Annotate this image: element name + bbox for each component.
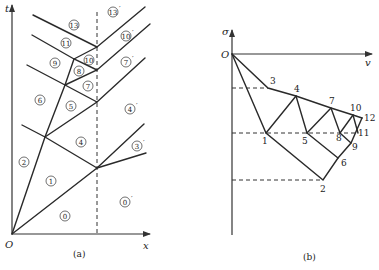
- region-label: 0: [63, 213, 67, 221]
- point-label-5: 5: [302, 136, 308, 146]
- region-label: 6: [38, 97, 43, 105]
- caption-a: (a): [73, 249, 85, 259]
- point-label-10: 10: [350, 103, 362, 113]
- region-label: 13: [109, 9, 118, 17]
- region-r4p: 4′: [125, 102, 138, 114]
- region-r8: 8: [74, 66, 84, 76]
- region-label: 7: [86, 83, 90, 91]
- region-label: 1: [49, 178, 53, 186]
- x-axis-label: x: [143, 240, 149, 251]
- t-axis-label: t: [5, 3, 10, 14]
- region-label: 10: [122, 33, 131, 41]
- region-r7p: 7′: [121, 55, 134, 67]
- prime-mark: ′: [119, 5, 121, 13]
- region-r3p: 3′: [132, 139, 145, 151]
- region-r6: 6: [35, 95, 45, 105]
- figure-canvas: t x O (a) 1313′1110′91087′7654′43′210′0 …: [0, 0, 379, 270]
- region-label: 11: [62, 40, 71, 48]
- panel-a: t x O (a) 1313′1110′91087′7654′43′210′0: [5, 3, 150, 259]
- region-label: 13: [70, 22, 79, 30]
- region-r7: 7: [83, 81, 93, 91]
- region-r0: 0: [60, 211, 70, 221]
- region-r2: 2: [19, 157, 29, 167]
- point-label-6: 6: [341, 158, 347, 168]
- region-r13: 13: [69, 20, 79, 30]
- point-label-11: 11: [358, 128, 369, 138]
- region-label: 4: [128, 106, 133, 114]
- prime-mark: ′: [132, 55, 134, 63]
- panel-b: σ v O (b) 123456789101112: [221, 26, 375, 262]
- prime-mark: ′: [132, 29, 134, 37]
- point-label-9: 9: [352, 142, 358, 152]
- point-label-4: 4: [294, 84, 300, 94]
- region-r11: 11: [61, 38, 71, 48]
- origin-label-b: O: [221, 49, 229, 60]
- point-label-1: 1: [262, 136, 268, 146]
- region-label: 8: [77, 68, 81, 76]
- region-label: 2: [22, 159, 26, 167]
- v-axis-label: v: [365, 57, 371, 68]
- region-label: 7: [124, 59, 128, 67]
- point-label-12: 12: [364, 113, 375, 123]
- point-label-7: 7: [329, 96, 335, 106]
- region-r9: 9: [50, 58, 60, 68]
- sigma-axis-label: σ: [222, 26, 230, 37]
- region-r1: 1: [46, 176, 56, 186]
- region-label: 0: [123, 199, 127, 207]
- region-r13p: 13′: [108, 5, 121, 17]
- region-label: 4: [79, 139, 84, 147]
- origin-label-a: O: [5, 239, 13, 250]
- prime-mark: ′: [143, 139, 145, 147]
- region-label: 9: [53, 60, 57, 68]
- region-r10: 10: [84, 55, 94, 65]
- region-r5: 5: [66, 101, 76, 111]
- point-label-8: 8: [336, 133, 342, 143]
- caption-b: (b): [303, 252, 316, 262]
- point-label-2: 2: [320, 184, 326, 194]
- prime-mark: ′: [136, 102, 138, 110]
- region-r4: 4: [76, 137, 86, 147]
- prime-mark: ′: [131, 195, 133, 203]
- region-label: 5: [69, 103, 73, 111]
- region-label: 3: [135, 143, 139, 151]
- point-label-3: 3: [270, 76, 276, 86]
- region-label: 10: [85, 57, 94, 65]
- region-labels: 1313′1110′91087′7654′43′210′0: [19, 5, 145, 221]
- region-r0p: 0′: [120, 195, 133, 207]
